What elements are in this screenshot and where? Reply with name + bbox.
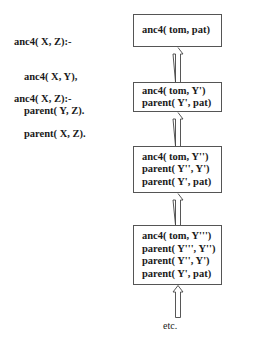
goal: parent( Y', pat) — [142, 176, 221, 189]
up-arrow-icon — [172, 47, 184, 82]
goal-box-1: anc4( tom, pat) — [133, 14, 222, 47]
clause-head: anc4( X, Z):- — [14, 93, 86, 105]
goal: parent( Y'', Y') — [142, 255, 221, 268]
continuation-label: etc. — [163, 320, 177, 331]
goal: parent( Y', pat) — [142, 97, 221, 110]
up-arrow-icon — [172, 112, 184, 146]
up-arrow-icon — [172, 193, 184, 225]
clause-2: anc4( X, Z):- parent( X, Z). — [14, 70, 86, 151]
goal: anc4( tom, Y''') — [142, 230, 221, 243]
goal: parent( Y''', Y'') — [142, 243, 221, 256]
goal: anc4( tom, Y'') — [142, 151, 221, 164]
goal: anc4( tom, Y') — [142, 85, 221, 98]
goal: parent( Y'', Y') — [142, 163, 221, 176]
goal: parent( Y', pat) — [142, 268, 221, 281]
clause-head: anc4( X, Z):- — [14, 36, 84, 48]
up-arrow-icon — [172, 285, 184, 318]
clause-body-goal: parent( X, Z). — [14, 128, 86, 140]
goal-box-3: anc4( tom, Y'') parent( Y'', Y') parent(… — [133, 146, 222, 193]
goal-box-4: anc4( tom, Y''') parent( Y''', Y'') pare… — [133, 225, 222, 285]
goal-box-2: anc4( tom, Y') parent( Y', pat) — [133, 82, 222, 112]
goal: anc4( tom, pat) — [142, 24, 221, 37]
